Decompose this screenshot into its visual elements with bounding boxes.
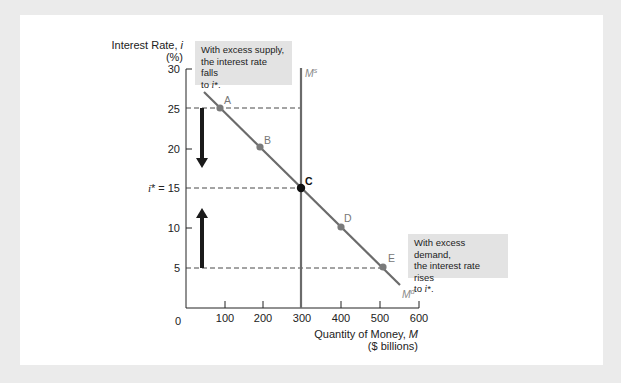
point-d-marker [337,223,344,230]
y-axis-title: Interest Rate, i [111,39,183,51]
excess-supply-line2: the interest rate falls [201,56,286,79]
x-tick-300: 300 [293,312,311,324]
excess-supply-line3: to i*. [201,79,286,92]
y-tick-istar: i* = 15 [148,182,180,194]
x-axis-title: Quantity of Money, M [314,328,419,340]
money-market-chart: 30 25 20 10 5 i* = 15 0 100 200 300 400 … [0,0,621,383]
point-b-marker [256,143,263,150]
excess-supply-note: With excess supply, the interest rate fa… [195,41,292,85]
excess-demand-note: With excess demand, the interest rate ri… [408,234,508,278]
x-tick-100: 100 [216,312,234,324]
y-tick-25: 25 [168,103,180,115]
x-axis-units: ($ billions) [368,340,418,352]
y-tick-10: 10 [168,222,180,234]
x-tick-400: 400 [332,312,350,324]
x-tick-500: 500 [371,312,389,324]
point-b-label: B [264,134,271,146]
excess-supply-line1: With excess supply, [201,44,286,56]
point-a-label: A [224,94,231,106]
origin-label: 0 [175,315,181,327]
up-arrow-icon [200,216,204,268]
down-arrow-icon [200,108,204,160]
point-c-marker [297,184,305,192]
y-tick-30: 30 [168,63,180,75]
excess-demand-line1: With excess demand, [414,237,502,260]
excess-demand-line2: the interest rate rises [414,260,502,283]
point-e-marker [379,263,386,270]
point-e-label: E [388,252,395,264]
reference-lines [186,108,383,268]
y-axis-units: (%) [166,51,183,63]
y-tick-20: 20 [168,143,180,155]
point-a-marker [216,104,223,111]
x-tick-200: 200 [254,312,272,324]
point-d-label: D [344,212,352,224]
x-tick-600: 600 [410,312,428,324]
y-tick-5: 5 [174,262,180,274]
point-c-label: C [305,175,313,187]
excess-demand-line3: to i*. [414,283,502,296]
money-supply-label: Ms [305,67,318,79]
